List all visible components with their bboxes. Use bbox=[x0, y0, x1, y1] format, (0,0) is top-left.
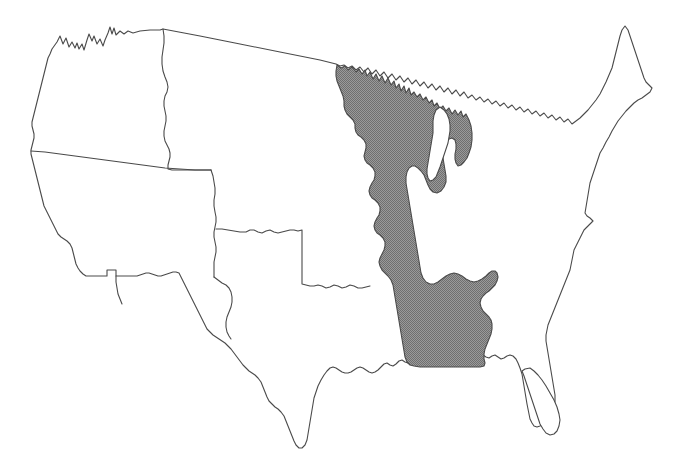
us-region-map-figure bbox=[0, 0, 681, 466]
divider-southwest-border bbox=[116, 276, 122, 304]
us-map-svg bbox=[0, 0, 681, 466]
